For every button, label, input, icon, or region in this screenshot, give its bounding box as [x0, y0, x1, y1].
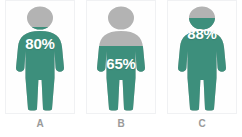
category-label-a: A [36, 119, 43, 129]
category-label-b: B [117, 119, 124, 129]
category-label-c: C [198, 119, 205, 129]
person-silhouette-icon [9, 6, 71, 111]
figure-card-c: 88% [167, 0, 237, 114]
figure-card-b: 65% [86, 0, 156, 114]
pictogram-chart: 80% A [0, 0, 242, 137]
person-figure-c: 88% [171, 6, 233, 111]
figure-column-a: 80% A [2, 0, 78, 137]
person-figure-b: 65% [90, 6, 152, 111]
figure-column-c: 88% C [164, 0, 240, 137]
person-figure-a: 80% [9, 6, 71, 111]
figure-column-b: 65% B [83, 0, 159, 137]
figure-card-a: 80% [5, 0, 75, 114]
person-silhouette-icon [90, 6, 152, 111]
person-silhouette-icon [171, 6, 233, 111]
